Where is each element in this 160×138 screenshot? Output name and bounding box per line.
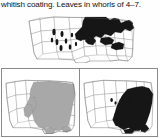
figure-page: whitish coating. Leaves in whorls of 4–7… <box>0 0 160 138</box>
range-map-bottom-left <box>2 69 80 136</box>
range-map-bottom-right <box>80 69 158 136</box>
lower-map-panel <box>1 68 158 137</box>
range-map-top <box>26 11 136 63</box>
caption-text: whitish coating. Leaves in whorls of 4–7… <box>1 0 160 10</box>
